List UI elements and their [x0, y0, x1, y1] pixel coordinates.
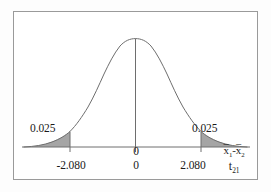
axis-caption-numerator: x1-x2 [210, 145, 258, 159]
tail-probability-label-right: 0.025 [192, 122, 217, 134]
axis-tick-label-center-top: 0 [128, 145, 144, 157]
distribution-figure: 0.025 0.025 0 -2.080 0 2.080 x1-x2 t21 [0, 0, 271, 192]
t-subscript: 21 [232, 166, 239, 175]
tail-probability-label-left: 0.025 [30, 122, 55, 134]
x-bar-1-symbol: x [223, 145, 229, 156]
axis-caption-denominator: t21 [210, 160, 258, 175]
x-bar-2-subscript: 2 [241, 151, 244, 158]
x-bar-2-symbol: x [236, 145, 242, 156]
axis-tick-label-left: -2.080 [40, 159, 102, 171]
axis-tick-label-center: 0 [128, 159, 144, 171]
axis-caption: x1-x2 t21 [210, 145, 258, 175]
